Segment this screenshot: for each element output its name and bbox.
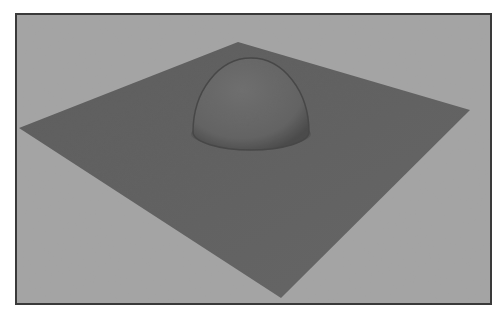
- render-frame: [15, 13, 492, 305]
- noise-overlay: [15, 13, 492, 305]
- scene-canvas: [15, 13, 492, 305]
